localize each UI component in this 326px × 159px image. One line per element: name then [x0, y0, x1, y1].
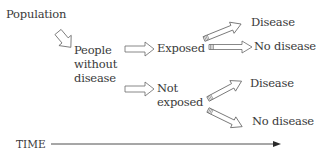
arrow-people-to-not-exposed: [125, 82, 154, 96]
node-not-exposed-line-1: Not: [157, 81, 203, 95]
node-exposed: Exposed: [157, 41, 205, 55]
arrow-not-exposed-to-no-disease: [205, 105, 244, 132]
time-axis-label: TIME: [16, 137, 46, 151]
arrow-not-exposed-to-disease: [205, 76, 244, 104]
node-not-exposed-disease: Disease: [250, 76, 294, 90]
node-not-exposed-line-2: exposed: [157, 95, 203, 109]
node-not-exposed-no-disease: No disease: [252, 114, 314, 128]
arrow-people-to-exposed: [125, 42, 154, 56]
node-people-line-3: disease: [74, 71, 117, 85]
node-people-line-1: People: [74, 43, 117, 57]
node-exposed-no-disease: No disease: [254, 39, 316, 53]
node-exposed-disease: Disease: [251, 15, 295, 29]
time-axis-arrow: [51, 141, 281, 147]
arrow-exposed-to-disease: [202, 18, 244, 44]
arrow-exposed-to-no-disease: [209, 41, 252, 53]
node-not-exposed: Not exposed: [157, 81, 203, 109]
node-people-without-disease: People without disease: [74, 43, 117, 85]
node-population: Population: [6, 7, 66, 21]
node-people-line-2: without: [74, 57, 117, 71]
